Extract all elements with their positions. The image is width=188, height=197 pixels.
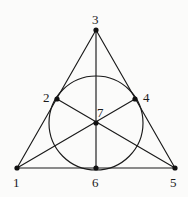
- point-label-3: 3: [92, 13, 99, 26]
- cevian-1-4: [17, 99, 135, 168]
- point-dot-3: [93, 27, 98, 32]
- point-label-7: 7: [97, 106, 104, 119]
- point-label-4: 4: [143, 91, 150, 104]
- point-dot-4: [132, 96, 137, 101]
- point-dot-2: [54, 96, 59, 101]
- point-label-6: 6: [92, 176, 99, 189]
- point-dot-7: [93, 120, 98, 125]
- point-label-1: 1: [13, 176, 20, 189]
- point-dot-1: [14, 165, 19, 170]
- cevian-2-5: [57, 99, 175, 168]
- point-dot-5: [172, 165, 177, 170]
- point-label-2: 2: [43, 91, 50, 104]
- point-label-5: 5: [170, 176, 177, 189]
- fano-plane-figure: 1 2 3 4 5 6 7: [0, 0, 188, 197]
- point-dot-6: [93, 165, 98, 170]
- fano-plane-svg: [0, 0, 188, 197]
